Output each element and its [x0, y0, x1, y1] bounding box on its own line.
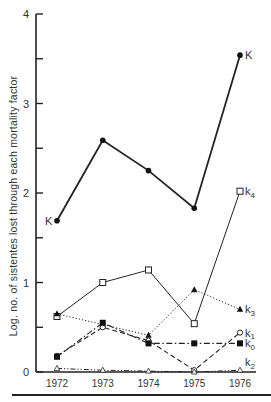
series-label-k3: k3 [245, 303, 256, 318]
marker-K [191, 205, 197, 211]
marker-k0 [54, 354, 60, 360]
series-label-k4: k4 [245, 185, 256, 200]
series-layer [54, 52, 243, 374]
series-line-k4 [57, 191, 240, 323]
marker-k2 [54, 365, 60, 370]
marker-k2 [146, 368, 152, 373]
y-tick-label: 0 [23, 366, 29, 378]
x-tick-label: 1975 [183, 378, 206, 389]
x-tick-label: 1973 [92, 378, 115, 389]
marker-k3 [237, 306, 243, 312]
y-axis-label: Log. no. of sistentes lost through each … [7, 41, 19, 371]
marker-K [54, 218, 60, 224]
marker-k0 [146, 340, 152, 346]
y-tick-label: 4 [23, 8, 29, 20]
x-tick-label: 1972 [46, 378, 69, 389]
marker-k0 [191, 340, 197, 346]
marker-k4 [237, 188, 243, 194]
marker-K [146, 168, 152, 174]
marker-k3 [145, 332, 151, 338]
y-tick-label: 3 [23, 98, 29, 110]
marker-k3 [191, 286, 197, 292]
y-tick-label: 2 [23, 187, 29, 199]
marker-k1 [237, 330, 242, 335]
marker-K [237, 52, 243, 58]
marker-k0 [100, 320, 106, 326]
marker-k4 [191, 321, 197, 327]
series-label-K-start: K [45, 215, 53, 227]
y-tick-label: 1 [23, 277, 29, 289]
x-tick-label: 1974 [137, 378, 160, 389]
series-label-K: K [245, 49, 253, 61]
x-tick-label: 1976 [229, 378, 252, 389]
marker-K [100, 137, 106, 143]
marker-k4 [100, 280, 106, 286]
marker-k4 [146, 267, 152, 273]
axes: 0123419721973197419751976 [23, 8, 256, 389]
marker-k2 [237, 367, 243, 372]
series-labels: KKk4k3k1k0k2 [45, 49, 256, 371]
line-chart: 0123419721973197419751976 KKk4k3k1k0k2 [0, 0, 271, 402]
series-line-K [57, 55, 240, 221]
series-label-k2: k2 [245, 356, 256, 371]
marker-k0 [237, 340, 243, 346]
bottom-rule [12, 394, 271, 396]
